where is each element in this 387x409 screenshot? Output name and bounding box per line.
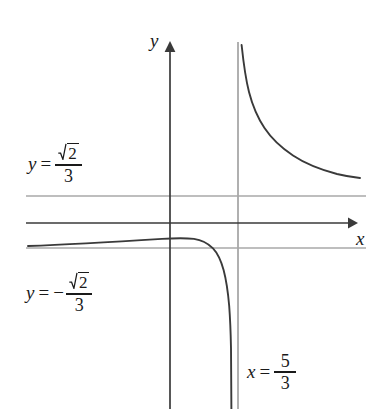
lower-asymptote-minus-sign: − — [53, 282, 64, 304]
graph-canvas — [0, 0, 387, 409]
lower-asymptote-radicand: 2 — [78, 272, 90, 291]
upper-asymptote-numerator: 2 — [55, 143, 82, 164]
y-axis-arrowhead — [165, 41, 176, 52]
lower-asymptote-variable: y — [26, 282, 34, 304]
lower-asymptote-fraction: 2 3 — [66, 272, 93, 314]
square-root-icon: 2 — [69, 272, 90, 291]
graph-figure: y x y = 2 3 y = − — [0, 0, 387, 409]
x-axis-label: x — [356, 228, 364, 250]
lower-asymptote-numerator: 2 — [66, 272, 93, 293]
upper-asymptote-fraction: 2 3 — [55, 143, 82, 185]
lower-asymptote-relation: = — [38, 282, 49, 304]
upper-asymptote-variable: y — [28, 153, 36, 175]
square-root-icon: 2 — [58, 143, 79, 162]
vertical-asymptote-equation-label: x = 5 3 — [247, 352, 296, 392]
vertical-asymptote-fraction: 5 3 — [274, 352, 296, 392]
upper-asymptote-equation-label: y = 2 3 — [28, 143, 82, 185]
vertical-asymptote-denominator: 3 — [278, 373, 293, 392]
upper-asymptote-radicand: 2 — [67, 143, 79, 162]
lower-asymptote-denominator: 3 — [72, 295, 87, 314]
curve-right-branch — [242, 45, 360, 178]
upper-asymptote-relation: = — [40, 153, 51, 175]
radical-sign-glyph — [58, 143, 67, 160]
upper-asymptote-denominator: 3 — [61, 166, 76, 185]
vertical-asymptote-variable: x — [247, 361, 255, 383]
radical-sign-glyph — [69, 272, 78, 289]
vertical-asymptote-relation: = — [259, 361, 270, 383]
vertical-asymptote-numerator: 5 — [278, 352, 293, 371]
curve-left-branch — [28, 238, 231, 409]
y-axis-label: y — [150, 30, 158, 52]
x-axis-arrowhead — [348, 218, 358, 229]
lower-asymptote-equation-label: y = − 2 3 — [26, 272, 92, 314]
